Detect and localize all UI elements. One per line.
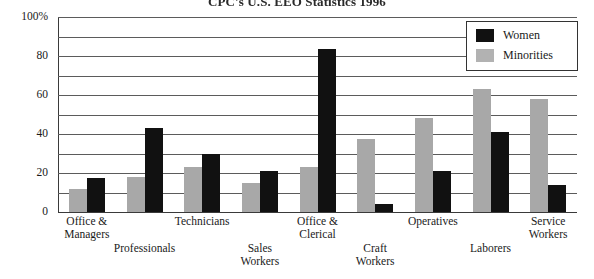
- y-tick-label-100: 100%: [0, 11, 48, 22]
- x-axis-label: Service Workers: [503, 215, 593, 241]
- chart-title: CPC's U.S. EEO Statistics 1996: [0, 0, 594, 10]
- x-axis-label: Laborers: [446, 242, 536, 255]
- y-tick-label-20: 20: [0, 167, 48, 178]
- y-tick-label-80: 80: [0, 50, 48, 61]
- x-axis-label: Professionals: [100, 242, 190, 255]
- bar-group: [357, 17, 393, 212]
- bar-women: [318, 49, 336, 212]
- x-axis-labels: Office & ManagersProfessionalsTechnician…: [0, 213, 594, 279]
- legend-label-women: Women: [503, 29, 540, 42]
- bar-women: [260, 171, 278, 212]
- bar-minorities: [69, 189, 87, 212]
- x-axis-label: Office & Clerical: [273, 215, 363, 241]
- bar-minorities: [300, 167, 318, 212]
- bar-minorities: [127, 177, 145, 212]
- bar-group: [415, 17, 451, 212]
- y-tick-label-60: 60: [0, 89, 48, 100]
- legend-swatch-minorities-icon: [476, 49, 494, 62]
- chart-legend: Women Minorities: [466, 21, 578, 71]
- bar-minorities: [530, 99, 548, 212]
- bar-group: [300, 17, 336, 212]
- x-axis-label: Operatives: [388, 215, 478, 228]
- bar-minorities: [184, 167, 202, 212]
- bar-women: [87, 178, 105, 212]
- bar-women: [202, 154, 220, 213]
- legend-label-minorities: Minorities: [503, 49, 553, 62]
- bar-women: [145, 128, 163, 212]
- bar-group: [242, 17, 278, 212]
- bar-minorities: [473, 89, 491, 212]
- bar-women: [375, 204, 393, 212]
- x-axis-label: Sales Workers: [215, 242, 305, 268]
- legend-item-women: Women: [476, 28, 540, 42]
- bar-women: [491, 132, 509, 212]
- bar-minorities: [242, 183, 260, 212]
- legend-swatch-women-icon: [476, 29, 494, 42]
- y-tick-label-40: 40: [0, 128, 48, 139]
- bar-women: [548, 185, 566, 212]
- x-axis-label: Craft Workers: [330, 242, 420, 268]
- x-axis-label: Office & Managers: [42, 215, 132, 241]
- bar-minorities: [415, 118, 433, 212]
- chart-container: CPC's U.S. EEO Statistics 1996 100%80604…: [0, 0, 594, 279]
- legend-item-minorities: Minorities: [476, 48, 553, 62]
- bar-minorities: [357, 139, 375, 212]
- x-axis-label: Technicians: [157, 215, 247, 228]
- bar-group: [184, 17, 220, 212]
- bar-group: [69, 17, 105, 212]
- bar-women: [433, 171, 451, 212]
- bar-group: [127, 17, 163, 212]
